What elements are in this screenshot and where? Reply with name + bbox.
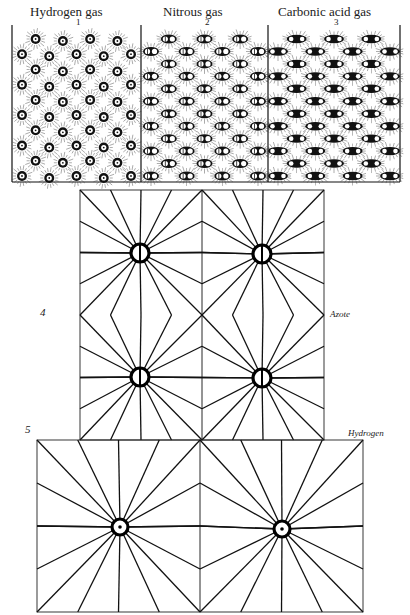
- figure-5-hydrogen-diagram: [37, 440, 363, 612]
- panel-single: [12, 25, 142, 189]
- panel-double: [139, 25, 270, 186]
- figure-4-azote-diagram: [80, 190, 324, 440]
- gas-panels: [12, 25, 404, 189]
- panel-triple: [264, 25, 404, 186]
- plate-illustration: [0, 0, 410, 615]
